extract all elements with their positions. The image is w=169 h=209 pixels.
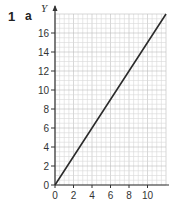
y-tick-label: 2 — [43, 161, 49, 172]
y-tick-label: 6 — [43, 123, 49, 134]
y-tick-label: 14 — [38, 47, 50, 58]
line-chart: 02468101214160246810Yx — [0, 0, 169, 209]
y-tick-label: 4 — [43, 142, 49, 153]
y-tick-label: 16 — [38, 28, 50, 39]
x-tick-label: 0 — [52, 190, 58, 201]
x-tick-label: 10 — [142, 190, 154, 201]
y-tick-label: 0 — [43, 180, 49, 191]
x-tick-label: 4 — [89, 190, 95, 201]
x-tick-label: 6 — [108, 190, 114, 201]
y-tick-label: 10 — [38, 85, 50, 96]
y-axis-label: Y — [41, 2, 49, 14]
x-tick-label: 2 — [71, 190, 77, 201]
y-tick-label: 12 — [38, 66, 50, 77]
x-tick-label: 8 — [126, 190, 132, 201]
y-tick-label: 8 — [43, 104, 49, 115]
y-axis-arrow-icon — [53, 5, 58, 11]
